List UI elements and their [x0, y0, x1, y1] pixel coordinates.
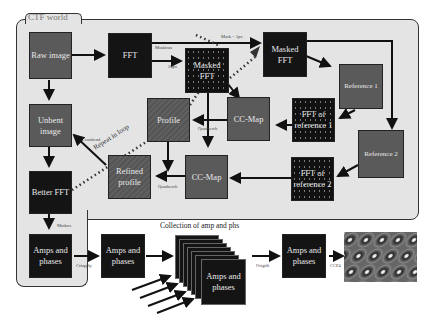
node-masked-fft-2: Masked FFT: [263, 32, 307, 77]
node-label: Unbent image: [30, 115, 71, 137]
node-label: CC-Map: [234, 114, 264, 125]
node-label: Raw image: [31, 50, 69, 61]
node-amps-and-phases-2: Amps and phases: [101, 234, 145, 278]
node-amps-and-phases-3: Amps and phases: [282, 234, 326, 278]
collection-title: Collection of amp and phs: [160, 221, 239, 230]
node-label: Masked FFT: [186, 60, 228, 82]
node-fft: FFT: [108, 33, 152, 78]
node-fft-of-reference-2: FFT of reference 2: [291, 157, 334, 201]
node-label: Reference 1: [344, 81, 378, 92]
node-reference-2: Reference 2: [358, 130, 404, 178]
node-label: Amps and phases: [102, 245, 144, 267]
node-label: FFT of reference 2: [292, 168, 333, 190]
node-cc-map-1: CC-Map: [227, 97, 270, 141]
edge-label-quadserch-1: Quadserch: [198, 126, 217, 131]
node-cc-map-2: CC-Map: [185, 155, 228, 199]
node-label: Refined profile: [109, 166, 150, 188]
reconstructed-lattice-image: [344, 232, 417, 282]
node-reference-1: Reference 1: [339, 64, 383, 109]
node-label: Better FFT: [32, 187, 70, 198]
node-label: CC-Map: [192, 172, 222, 183]
node-label: FFT: [123, 50, 138, 61]
node-unbent-image: Unbent image: [29, 104, 72, 147]
node-label: Amps and phases: [283, 245, 325, 267]
edge-label-masktran: Masktran: [155, 45, 172, 50]
edge-label-quadserch-2: Quadserch: [158, 184, 177, 189]
edge-label-mmbox: Mmbox: [57, 223, 71, 228]
node-refined-profile: Refined profile: [108, 155, 151, 199]
edge-label-ctfapply: Ctfapply: [76, 263, 92, 268]
node-profile: Profile: [147, 98, 190, 142]
node-label: Profile: [157, 115, 180, 126]
node-raw-image: Raw image: [29, 32, 72, 79]
node-label: Amps and phases: [30, 245, 71, 267]
node-label: FFT of reference 1: [293, 109, 334, 131]
edge-label-origtilt: Origtilt: [256, 263, 269, 268]
node-amps-and-phases-1: Amps and phases: [29, 234, 72, 278]
node-amps-and-phases-stack: Amps and phases: [201, 259, 246, 305]
edge-label-ccp4: CCP4: [330, 263, 341, 268]
node-fft-of-reference-1: FFT of reference 1: [292, 98, 335, 142]
node-label: Masked FFT: [264, 44, 306, 66]
edge-label-mask-1px: Mask = 1px: [221, 34, 243, 39]
node-better-fft: Better FFT: [29, 171, 72, 214]
node-label: Amps and phases: [202, 271, 245, 293]
node-masked-fft-1: Masked FFT: [185, 48, 229, 93]
node-label: Reference 2: [364, 149, 398, 160]
edge-label-20px: 20px: [168, 64, 177, 69]
